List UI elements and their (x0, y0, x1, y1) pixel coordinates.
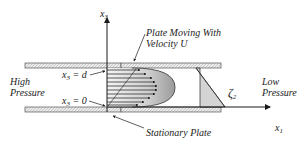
x3-equals-d-label: x3 = d (62, 69, 87, 84)
stationary-plate-label: Stationary Plate (146, 127, 211, 138)
low-pressure-label: Low Pressure (262, 76, 297, 98)
x1-axis-label: x1 (275, 122, 283, 137)
moving-plate-label: Plate Moving With Velocity U (146, 27, 221, 49)
zeta-label: ζ2 (228, 88, 236, 103)
high-pressure-label: High Pressure (10, 76, 45, 98)
x3-axis-label: x3 (100, 8, 108, 23)
x3-equals-0-label: x3 = 0 (62, 95, 87, 110)
